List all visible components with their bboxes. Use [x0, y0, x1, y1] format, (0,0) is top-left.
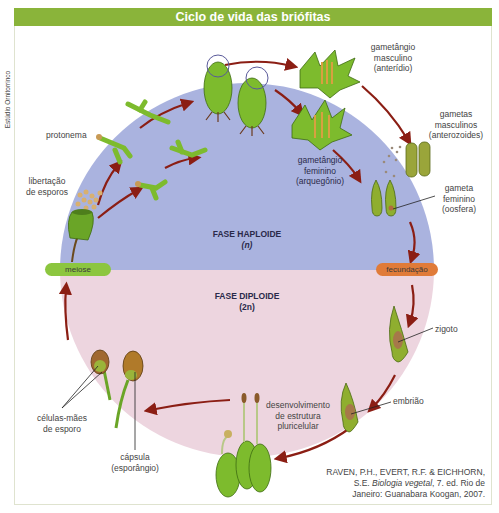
female-gametangium-line3: (arquegônio) — [285, 176, 355, 187]
female-gamete-line2: feminino — [434, 194, 484, 205]
zygote-label: zigoto — [435, 324, 458, 335]
germinating-spore — [135, 181, 141, 187]
development-line3: pluricelular — [262, 421, 334, 432]
male-gametes-line1: gametas — [420, 109, 492, 120]
reference-authors-end: S.E. — [354, 478, 370, 488]
reference-edition: , 7. ed. Rio de — [432, 478, 485, 488]
female-gametangium-line1: gametângio — [285, 155, 355, 166]
haploid-ploidy: (n) — [207, 240, 287, 251]
spore-mother-cells-line1: células-mães — [32, 413, 92, 424]
spore-release-line1: libertação — [26, 176, 68, 187]
haploid-phase-name: FASE HAPLOIDE — [207, 229, 287, 240]
development-label: desenvolvimento de estrutura pluricelula… — [262, 400, 334, 432]
spore-release-label: libertação de esporos — [26, 176, 68, 197]
meiosis-pill: meiose — [45, 263, 111, 276]
antheridia — [406, 142, 430, 177]
capsule-line1: cápsula — [104, 452, 166, 463]
male-gametangium-line3: (anterídio) — [358, 63, 428, 74]
female-gamete-line1: gameta — [434, 183, 484, 194]
fertilization-pill: fecundação — [376, 263, 438, 276]
spore-mother-cells-label: células-mães de esporo — [32, 413, 92, 434]
spore-mother-cells-line2: de esporo — [32, 424, 92, 435]
female-gamete-line3: (oosfera) — [434, 204, 484, 215]
germinating-spore — [96, 134, 102, 140]
diploid-phase-label: FASE DIPLOIDE (2n) — [207, 291, 287, 312]
diploid-ploidy: (2n) — [207, 302, 287, 313]
capsule-label: cápsula (esporângio) — [104, 452, 166, 473]
reference-line3: Janeiro: Guanabara Koogan, 2007. — [326, 489, 485, 500]
capsule-line2: (esporângio) — [104, 463, 166, 474]
female-gametangium-label: gametângio feminino (arquegônio) — [285, 155, 355, 187]
male-gametangium-label: gametângio masculino (anterídio) — [358, 42, 428, 74]
male-gametangium — [300, 50, 360, 98]
female-gamete-label: gameta feminino (oosfera) — [434, 183, 484, 215]
male-gametes-line3: (anterozoides) — [420, 130, 492, 141]
embryo-label: embrião — [393, 396, 424, 407]
life-cycle-diagram — [0, 0, 499, 513]
bibliographic-reference: RAVEN, P.H., EVERT, R.F. & EICHHORN, S.E… — [326, 467, 485, 500]
male-gametes-line2: masculinos — [420, 120, 492, 131]
male-gametangium-line1: gametângio — [358, 42, 428, 53]
male-gametangium-line2: masculino — [358, 53, 428, 64]
male-gametes-label: gametas masculinos (anterozoides) — [420, 109, 492, 141]
reference-line1: RAVEN, P.H., EVERT, R.F. & EICHHORN, — [326, 467, 485, 478]
female-gametangium-line2: feminino — [285, 166, 355, 177]
haploid-phase-label: FASE HAPLOIDE (n) — [207, 229, 287, 250]
protonema-label: protonema — [46, 130, 87, 141]
reference-line2: S.E. Biologia vegetal, 7. ed. Rio de — [326, 478, 485, 489]
development-line2: de estrutura — [262, 411, 334, 422]
spore-release-line2: de esporos — [26, 187, 68, 198]
reference-book-title: Biologia vegetal — [372, 478, 432, 488]
diploid-phase-name: FASE DIPLOIDE — [207, 291, 287, 302]
development-line1: desenvolvimento — [262, 400, 334, 411]
